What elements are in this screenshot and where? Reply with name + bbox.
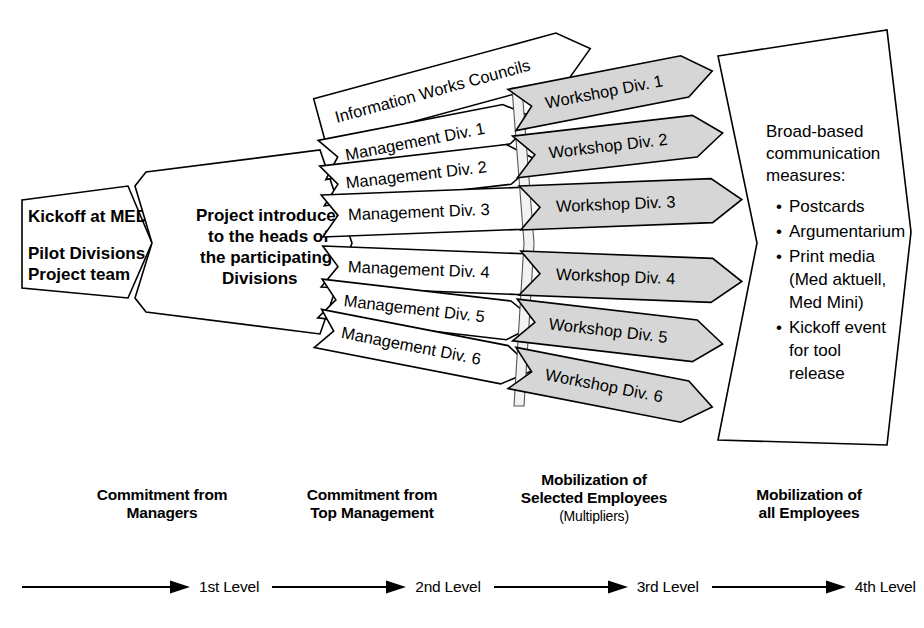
level-3-label: 3rd Level (628, 578, 708, 596)
broad-panel-bullet-3-line3: Med Mini) (789, 293, 864, 312)
broad-panel-bullet-1-line1: Postcards (789, 197, 865, 216)
level-1-label: 1st Level (190, 578, 268, 596)
stage-caption-3: Mobilization of Selected Employees (Mult… (484, 471, 704, 524)
stage-caption-1: Commitment from Managers (62, 486, 262, 523)
level-arrow-3-icon (494, 580, 628, 594)
stage-caption-3-line3: (Multipliers) (484, 508, 704, 525)
stage2-line3: the participating (200, 248, 332, 267)
level-arrow-2-icon (272, 580, 406, 594)
stage-caption-4: Mobilization of all Employees (714, 486, 904, 523)
level-arrow-4-icon (712, 580, 846, 594)
stage2-line4: Divisions (222, 269, 298, 288)
broad-panel-heading-line3: measures: (766, 166, 845, 185)
level-arrow-1-icon (22, 580, 190, 594)
diagram-canvas: Kickoff at MED Pilot Divisions and Proje… (0, 0, 924, 628)
stage-caption-3-line2: Selected Employees (484, 489, 704, 507)
level-2-label: 2nd Level (406, 578, 489, 596)
broad-panel-bullet-1-marker: • (776, 197, 782, 216)
level-4-label: 4th Level (846, 578, 924, 596)
workshop-row-4[interactable]: Workshop Div. 4 (519, 251, 743, 303)
stage1-line1: Kickoff at MED (28, 207, 148, 226)
stage2-chevron[interactable]: Project introduced to the heads of the p… (135, 150, 352, 334)
stage-caption-2: Commitment from Top Management (272, 486, 472, 523)
broad-panel-bullet-4-line1: Kickoff event (789, 318, 886, 337)
stage-caption-1-line2: Managers (62, 504, 262, 522)
broad-based-panel[interactable]: Broad-based communication measures: • Po… (718, 30, 911, 445)
broad-panel-bullet-4-line2: for tool (789, 341, 841, 360)
level-group-1: 1st Level (22, 578, 268, 596)
workshop-row-3[interactable]: Workshop Div. 3 (519, 177, 743, 229)
process-flow-diagram: Kickoff at MED Pilot Divisions and Proje… (0, 0, 924, 470)
broad-panel-bullet-2-line1: Argumentarium (789, 222, 905, 241)
level-group-4: 4th Level (712, 578, 924, 596)
stage-caption-1-line1: Commitment from (62, 486, 262, 504)
level-group-3: 3rd Level (494, 578, 708, 596)
stage2-line2: to the heads of (208, 227, 329, 246)
stage-caption-3-line1: Mobilization of (484, 471, 704, 489)
broad-panel-bullet-3-line2: (Med aktuell, (789, 270, 886, 289)
broad-panel-bullet-4-line3: release (789, 364, 845, 383)
broad-panel-bullet-4-marker: • (776, 318, 782, 337)
broad-panel-heading-line2: communication (766, 144, 880, 163)
stage2-line1: Project introduced (196, 206, 346, 225)
broad-panel-bullet-2-marker: • (776, 222, 782, 241)
stage-caption-2-line1: Commitment from (272, 486, 472, 504)
level-ruler: 1st Level 2nd Level 3rd Level 4th Level (0, 570, 924, 604)
level-group-2: 2nd Level (272, 578, 489, 596)
stage-caption-2-line2: Top Management (272, 504, 472, 522)
broad-panel-heading-line1: Broad-based (766, 122, 863, 141)
stage1-line3: Project team (28, 265, 130, 284)
stage-captions-row: Commitment from Managers Commitment from… (0, 468, 924, 548)
stage-caption-4-line2: all Employees (714, 504, 904, 522)
broad-panel-bullet-3-line1: Print media (789, 247, 876, 266)
broad-panel-bullet-3-marker: • (776, 247, 782, 266)
stage-caption-4-line1: Mobilization of (714, 486, 904, 504)
